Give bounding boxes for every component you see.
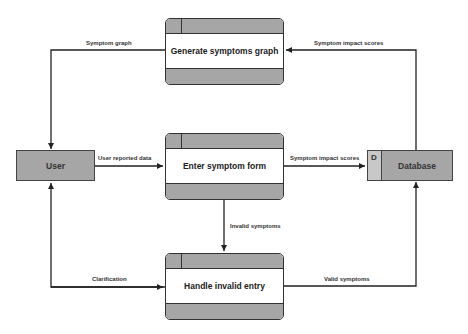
label-clarification: Clarification xyxy=(92,276,127,282)
label-impact-scores-mid: Symptom impact scores xyxy=(290,155,359,161)
process-id-divider xyxy=(181,19,182,33)
process-footer xyxy=(166,303,283,319)
flow-clarification-back xyxy=(51,183,165,287)
datastore-label: Database xyxy=(382,151,452,180)
datastore-database: D Database xyxy=(367,150,453,181)
process-header xyxy=(166,19,283,34)
flow-impact-scores-top xyxy=(286,50,416,150)
label-symptom-graph: Symptom graph xyxy=(86,40,132,46)
label-user-reported-data: User reported data xyxy=(98,155,151,161)
process-label: Generate symptoms graph xyxy=(166,34,283,68)
flow-valid-symptoms xyxy=(284,182,416,286)
process-header xyxy=(166,134,283,149)
process-label: Enter symptom form xyxy=(166,149,283,183)
process-id-divider xyxy=(181,254,182,268)
label-invalid-symptoms: Invalid symptoms xyxy=(230,223,281,229)
entity-user: User xyxy=(16,150,95,181)
datastore-id: D xyxy=(368,151,382,180)
label-impact-scores-top: Symptom impact scores xyxy=(314,40,383,46)
process-id-divider xyxy=(181,134,182,148)
process-handle-invalid-entry: Handle invalid entry xyxy=(165,253,284,320)
flow-symptom-graph xyxy=(51,50,165,149)
process-footer xyxy=(166,68,283,84)
process-footer xyxy=(166,183,283,199)
process-header xyxy=(166,254,283,269)
process-enter-symptom-form: Enter symptom form xyxy=(165,133,284,200)
label-valid-symptoms: Valid symptoms xyxy=(324,276,370,282)
process-label: Handle invalid entry xyxy=(166,269,283,303)
process-generate-symptoms-graph: Generate symptoms graph xyxy=(165,18,284,85)
